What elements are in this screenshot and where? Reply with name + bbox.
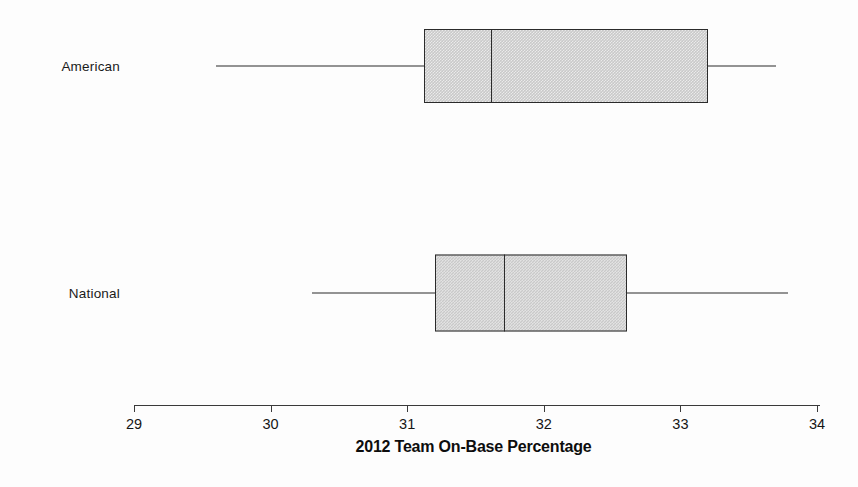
box-plot-figure: American National 293031323334 2012 Team… <box>0 0 858 487</box>
category-label-american: American <box>0 59 120 74</box>
x-axis-line <box>134 405 820 406</box>
whisker-high-american <box>708 66 776 67</box>
x-axis-tick-30 <box>271 405 272 412</box>
x-axis-tick-label-29: 29 <box>126 416 142 432</box>
x-axis-tick-label-30: 30 <box>263 416 279 432</box>
x-axis-tick-label-33: 33 <box>672 416 688 432</box>
category-label-national: National <box>0 286 120 301</box>
x-axis-tick-31 <box>407 405 408 412</box>
x-axis-tick-label-31: 31 <box>399 416 415 432</box>
whisker-low-national <box>312 293 435 294</box>
x-axis-tick-label-34: 34 <box>809 416 825 432</box>
x-axis-tick-32 <box>544 405 545 412</box>
x-axis-tick-29 <box>134 405 135 412</box>
x-axis-tick-33 <box>680 405 681 412</box>
iqr-box-national <box>435 255 628 332</box>
iqr-box-american <box>424 29 708 103</box>
x-axis-title: 2012 Team On-Base Percentage <box>355 438 591 456</box>
median-line-national <box>504 255 505 332</box>
whisker-high-national <box>627 293 788 294</box>
whisker-low-american <box>216 66 424 67</box>
median-line-american <box>491 29 492 103</box>
x-axis-tick-label-32: 32 <box>536 416 552 432</box>
x-axis-tick-34 <box>817 405 818 412</box>
